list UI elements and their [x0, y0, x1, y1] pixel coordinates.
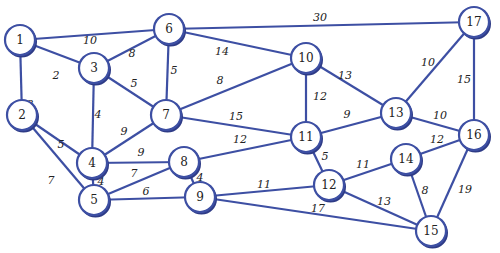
node-9: 9 — [185, 182, 217, 215]
node-label: 12 — [321, 178, 336, 192]
edge-weight-label: 8 — [217, 74, 224, 87]
edge-weight-label: 5 — [131, 77, 138, 90]
edge-weight-label: 12 — [430, 133, 444, 146]
node-label: 14 — [398, 152, 414, 166]
edge-weight-label: 5 — [322, 150, 329, 163]
edge-weight-label: 8 — [422, 184, 429, 197]
node-label: 8 — [180, 155, 188, 169]
node-label: 5 — [90, 193, 98, 207]
edge-weight-label: 15 — [457, 73, 471, 86]
node-label: 16 — [466, 128, 481, 142]
node-label: 11 — [298, 130, 313, 144]
node-label: 1 — [16, 33, 24, 47]
node-label: 2 — [18, 108, 26, 122]
node-8: 8 — [169, 147, 201, 180]
node-16: 16 — [459, 120, 491, 153]
edge-weight-label: 14 — [215, 45, 229, 58]
edge-weight-label: 8 — [129, 47, 136, 60]
node-label: 3 — [90, 61, 98, 75]
edge-weight-label: 6 — [143, 185, 150, 198]
node-1: 1 — [5, 25, 37, 58]
node-13: 13 — [381, 98, 413, 131]
node-15: 15 — [416, 216, 448, 249]
node-label: 7 — [162, 108, 170, 122]
node-label: 15 — [423, 224, 438, 238]
node-label: 4 — [88, 156, 96, 170]
edge-weight-label: 15 — [229, 110, 243, 123]
node-label: 6 — [165, 22, 173, 36]
edge-weight-label: 17 — [311, 202, 325, 215]
edge-weight-label: 7 — [48, 174, 55, 187]
node-label: 10 — [298, 51, 313, 65]
edge-weight-label: 4 — [94, 108, 102, 121]
edge-weight-label: 5 — [171, 64, 178, 77]
edge-weight-label: 10 — [433, 109, 447, 122]
edge-13-17 — [396, 22, 474, 113]
edge-weight-label: 5 — [58, 138, 65, 151]
edge-7-10 — [166, 58, 306, 115]
node-14: 14 — [391, 144, 423, 177]
node-12: 12 — [314, 170, 346, 203]
node-10: 10 — [291, 43, 323, 76]
edge-6-10 — [169, 29, 306, 58]
node-2: 2 — [7, 100, 39, 133]
edge-weight-label: 13 — [377, 195, 391, 208]
node-3: 3 — [79, 53, 111, 86]
graph-diagram: 1023854514308915579476124111712139511131… — [0, 0, 500, 253]
edge-weight-label: 30 — [313, 11, 327, 24]
edge-weight-label: 9 — [121, 125, 128, 138]
node-6: 6 — [154, 14, 186, 47]
node-5: 5 — [79, 185, 111, 218]
edge-weight-label: 11 — [257, 178, 271, 191]
edge-weight-label: 13 — [338, 69, 352, 82]
node-label: 17 — [466, 15, 481, 29]
edge-weight-label: 19 — [458, 183, 472, 196]
node-7: 7 — [151, 100, 183, 133]
edge-weight-label: 12 — [233, 133, 247, 146]
node-label: 13 — [388, 106, 403, 120]
edge-weight-label: 12 — [313, 90, 327, 103]
node-4: 4 — [77, 148, 109, 181]
edge-weight-label: 10 — [421, 56, 435, 69]
node-label: 9 — [196, 190, 204, 204]
edge-weight-label: 7 — [131, 167, 138, 180]
edge-weight-label: 9 — [138, 146, 145, 159]
edge-weight-label: 2 — [52, 69, 60, 82]
node-11: 11 — [291, 122, 323, 155]
edge-weight-label: 11 — [356, 158, 370, 171]
edge-weight-label: 10 — [83, 34, 97, 47]
edge-weight-label: 9 — [344, 108, 351, 121]
